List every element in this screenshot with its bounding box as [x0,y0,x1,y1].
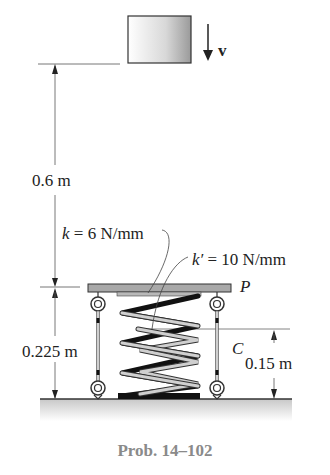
velocity-arrow-icon [203,24,213,61]
plate-height-label: 0.225 m [22,343,78,360]
plate-p [88,284,231,292]
spring-k-prime-label: k′ = 10 N/mm [192,251,286,268]
velocity-label: v [218,42,227,59]
k-prime-value: = 10 N/mm [203,250,286,269]
k-prime-symbol: k′ [192,250,203,269]
k-value: = 6 N/mm [70,224,144,243]
point-c-label: C [232,340,243,357]
right-tie-rod [210,292,224,399]
figure-caption: Prob. 14–102 [0,441,330,461]
spring-impact-diagram [0,0,330,475]
plate-p-label: P [240,278,250,295]
falling-block [128,16,191,63]
inner-spring-k-prime [122,313,198,394]
spring-k-label: k = 6 N/mm [62,225,144,242]
ground [40,399,292,421]
left-tie-rod [91,292,105,399]
inner-spring-height-label: 0.15 m [245,355,292,372]
drop-height-label: 0.6 m [32,172,71,189]
k-symbol: k [62,224,70,243]
